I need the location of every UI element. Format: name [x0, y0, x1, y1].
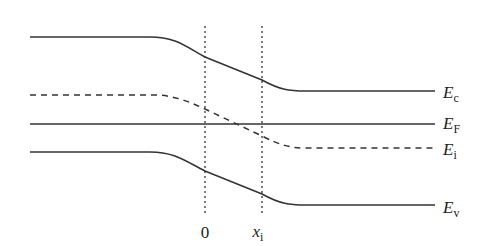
label-Ei: Ei: [442, 140, 457, 162]
conduction-band-curve: [30, 37, 435, 91]
valence-band-curve: [30, 152, 435, 205]
intrinsic-level-curve: [30, 95, 435, 148]
label-EF: EF: [442, 114, 460, 136]
label-Ec: Ec: [442, 83, 459, 105]
label-origin: 0: [201, 223, 210, 242]
label-Ev: Ev: [442, 198, 459, 220]
band-diagram: Ec EF Ei Ev 0 xi: [0, 0, 489, 246]
label-xi: xi: [252, 222, 265, 244]
